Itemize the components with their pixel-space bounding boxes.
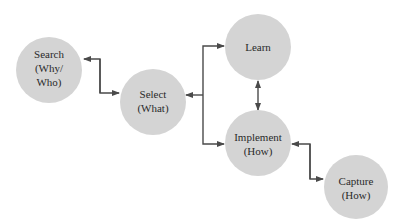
connector-implement-capture: [292, 144, 323, 179]
svg-text:Search: Search: [34, 48, 64, 60]
svg-text:Capture: Capture: [339, 175, 374, 187]
process-diagram: Search (Why/ Who) Select (What) Learn Im…: [0, 0, 409, 222]
node-learn: Learn: [225, 14, 291, 80]
svg-text:Select: Select: [140, 88, 167, 100]
svg-text:(How): (How): [244, 145, 273, 158]
node-select: Select (What): [120, 69, 186, 135]
node-implement: Implement (How): [225, 110, 291, 176]
svg-text:Implement: Implement: [234, 131, 282, 143]
connector-select-learn-implement: [186, 46, 224, 144]
svg-text:(What): (What): [137, 102, 168, 115]
svg-text:Learn: Learn: [245, 41, 271, 53]
svg-text:Who): Who): [36, 76, 61, 89]
connector-search-select: [84, 59, 119, 93]
node-search: Search (Why/ Who): [16, 37, 82, 103]
svg-text:(Why/: (Why/: [35, 62, 64, 75]
node-capture: Capture (How): [324, 155, 388, 219]
svg-text:(How): (How): [342, 189, 371, 202]
